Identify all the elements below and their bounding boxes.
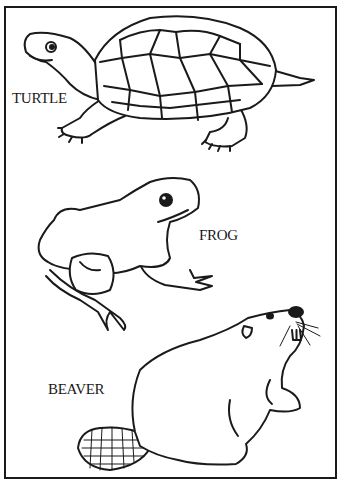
beaver-drawing <box>78 307 320 470</box>
turtle-drawing <box>25 16 314 151</box>
frog-label: FROG <box>199 227 238 244</box>
beaver-label: BEAVER <box>48 381 104 398</box>
illustrations <box>0 0 343 481</box>
turtle-label: TURTLE <box>12 90 67 107</box>
frog-drawing <box>39 178 212 330</box>
